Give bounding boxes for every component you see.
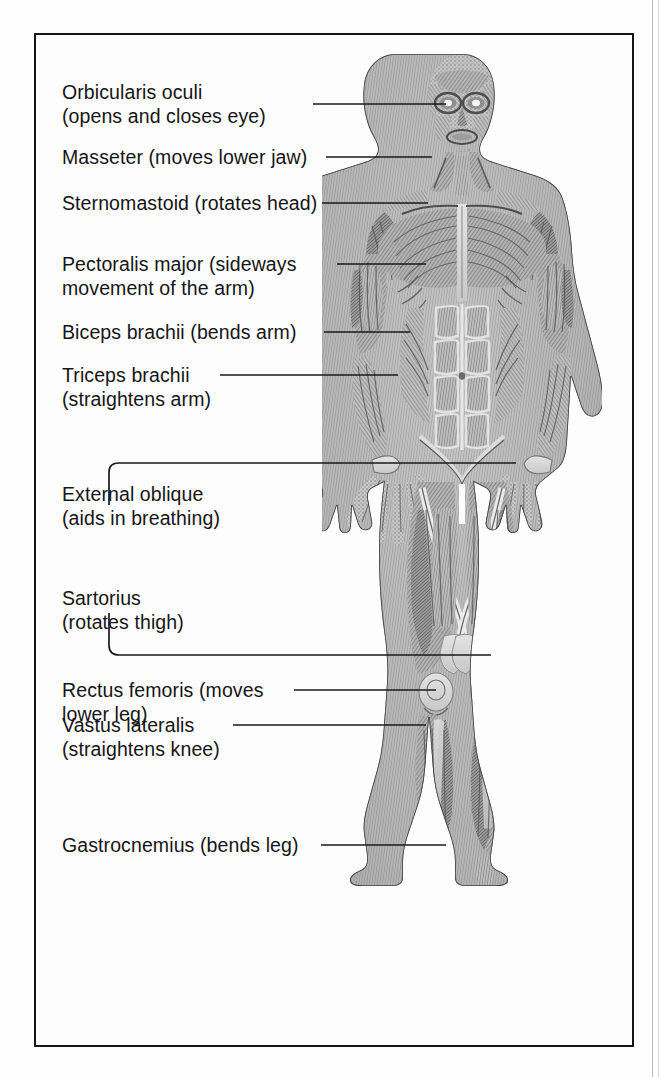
- label-biceps-brachii-line1: Biceps brachii (bends arm): [62, 321, 297, 343]
- label-vastus-lateralis: Vastus lateralis(straightens knee): [62, 713, 220, 761]
- label-rectus-femoris-line1: Rectus femoris (moves: [62, 679, 263, 701]
- label-vastus-lateralis-line2: (straightens knee): [62, 738, 220, 760]
- label-pectoralis-major-line1: Pectoralis major (sideways: [62, 253, 297, 275]
- label-gastrocnemius-line1: Gastrocnemius (bends leg): [62, 834, 299, 856]
- label-sartorius-line1: Sartorius: [62, 587, 141, 609]
- page-gutter-edge: [658, 0, 659, 1077]
- label-triceps-brachii: Triceps brachii(straightens arm): [62, 363, 211, 411]
- diagram-plate: Orbicularis oculi(opens and closes eye) …: [34, 33, 634, 1047]
- label-sternomastoid: Sternomastoid (rotates head): [62, 191, 317, 215]
- anatomical-figure: [322, 40, 602, 1040]
- label-pectoralis-major-line2: movement of the arm): [62, 277, 255, 299]
- page-canvas: Orbicularis oculi(opens and closes eye) …: [0, 0, 660, 1077]
- foot-muscles: [422, 902, 503, 997]
- label-pectoralis-major: Pectoralis major (sidewaysmovement of th…: [62, 252, 297, 300]
- head-muscles: [428, 54, 497, 152]
- label-orbicularis-oculi-line2: (opens and closes eye): [62, 105, 266, 127]
- label-external-oblique-line2: (aids in breathing): [62, 507, 220, 529]
- label-gastrocnemius: Gastrocnemius (bends leg): [62, 833, 299, 857]
- label-external-oblique: External oblique(aids in breathing): [62, 482, 220, 530]
- label-orbicularis-oculi: Orbicularis oculi(opens and closes eye): [62, 80, 266, 128]
- label-triceps-brachii-line2: (straightens arm): [62, 388, 211, 410]
- label-triceps-brachii-line1: Triceps brachii: [62, 364, 190, 386]
- label-external-oblique-line1: External oblique: [62, 483, 203, 505]
- label-biceps-brachii: Biceps brachii (bends arm): [62, 320, 297, 344]
- label-sartorius-line2: (rotates thigh): [62, 611, 184, 633]
- label-orbicularis-oculi-line1: Orbicularis oculi: [62, 81, 202, 103]
- page-gutter-line: [652, 0, 653, 1077]
- label-sternomastoid-line1: Sternomastoid (rotates head): [62, 192, 317, 214]
- label-masseter-line1: Masseter (moves lower jaw): [62, 146, 307, 168]
- label-sartorius: Sartorius(rotates thigh): [62, 586, 184, 634]
- label-masseter: Masseter (moves lower jaw): [62, 145, 307, 169]
- label-vastus-lateralis-line1: Vastus lateralis: [62, 714, 194, 736]
